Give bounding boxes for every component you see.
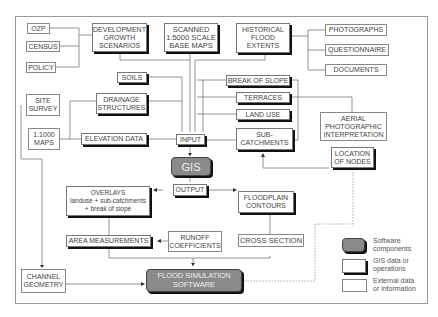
elevation-data-box: ELEVATION DATA: [81, 133, 147, 145]
area-measurements-box: AREA MEASUREMENTS: [66, 235, 151, 247]
land-use-box: LAND USE: [236, 109, 290, 120]
ozp-box: OZP: [27, 23, 50, 34]
legend-gis-swatch: [342, 259, 366, 273]
sub-catchments-box: SUB- CATCHMENTS: [236, 128, 293, 150]
policy-box: POLICY: [26, 62, 56, 73]
terraces-box: TERRACES: [236, 92, 290, 103]
runoff-coefficients-box: RUNOFF COEFFICIENTS: [168, 231, 222, 252]
soils-box: SOILS: [117, 72, 147, 83]
legend-software-swatch: [342, 238, 365, 252]
development-growth-box: DEVELOPMENT GROWTH SCENARIOS: [92, 23, 147, 52]
channel-geometry-box: CHANNEL GEOMETRY: [21, 269, 66, 293]
documents-box: DOCUMENTS: [325, 64, 387, 76]
historical-flood-box: HISTORICAL FLOOD EXTENTS: [236, 23, 290, 53]
questionnaire-box: QUESTIONNAIRE: [325, 44, 389, 56]
input-box: INPUT: [176, 134, 205, 145]
flood-simulation-software-box: FLOOD SIMULATION SOFTWARE: [146, 269, 242, 292]
site-survey-box: SITE SURVEY: [26, 94, 60, 116]
drainage-structures-box: DRAINAGE STRUCTURES: [96, 93, 147, 114]
aerial-interpretation-box: AERIAL PHOTOGRAPHIC INTERPRETATION: [320, 112, 387, 141]
cross-section-box: CROSS SECTION: [238, 234, 304, 247]
output-box: OUTPUT: [173, 184, 207, 196]
legend-software-label: Software components: [373, 237, 411, 253]
gis-software-box: GIS: [171, 157, 211, 176]
legend-external-swatch: [342, 279, 367, 292]
break-of-slope-box: BREAK OF SLOPE: [226, 75, 290, 86]
location-of-nodes-box: LOCATION OF NODES: [331, 147, 374, 168]
legend-external-label: External data or information: [373, 277, 416, 293]
census-box: CENSUS: [26, 41, 60, 52]
scanned-base-maps-box: SCANNED 1:5000 SCALE BASE MAPS: [164, 23, 218, 52]
legend-gis-label: GIS data or operations: [373, 257, 409, 273]
floodplain-contours-box: FLOODPLAIN CONTOURS: [238, 191, 294, 213]
overlays-box: OVERLAYS landuse + sub-catchments + brea…: [66, 186, 150, 216]
photographs-box: PHOTOGRAPHS: [325, 24, 387, 36]
maps-1000-box: 1:1000 MAPS: [28, 128, 60, 150]
